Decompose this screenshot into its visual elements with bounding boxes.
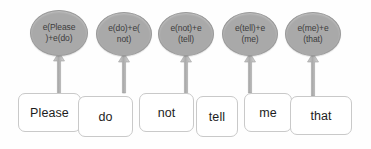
- embedding-node[interactable]: e(do)+e( not): [96, 12, 152, 56]
- embedding-node[interactable]: e(tell)+e (me): [222, 12, 278, 56]
- embedding-sum-diagram: Pleasedonottellmethat e(Please )+e(do)e(…: [0, 0, 371, 149]
- embedding-node[interactable]: e(me)+e (that): [285, 12, 341, 56]
- embedding-node-label: e(tell)+e (me): [233, 23, 267, 45]
- embedding-node-label: e(Please )+e(do): [41, 22, 78, 44]
- embedding-node[interactable]: e(Please )+e(do): [30, 10, 88, 56]
- nodes-layer: e(Please )+e(do)e(do)+e( not)e(not)+e (t…: [0, 0, 371, 149]
- embedding-node-label: e(do)+e( not): [106, 23, 142, 45]
- embedding-node-label: e(not)+e (tell): [168, 23, 203, 45]
- embedding-node-label: e(me)+e (that): [295, 23, 330, 45]
- embedding-node[interactable]: e(not)+e (tell): [158, 12, 214, 56]
